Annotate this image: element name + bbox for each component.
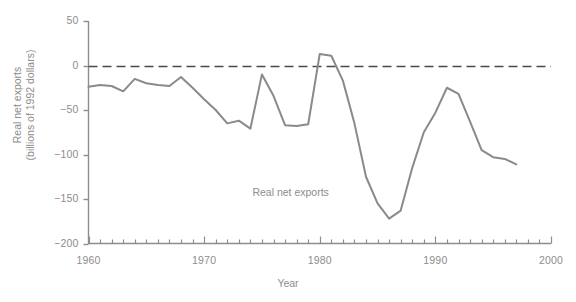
y-axis-title-line-2: (billions of 1992 dollars) (24, 35, 37, 175)
y-axis-tick-label: −150 (54, 192, 78, 204)
x-axis-tick-label: 1960 (59, 254, 119, 266)
axes (84, 21, 552, 245)
y-axis-tick-label: −50 (60, 103, 78, 115)
x-axis-ticks (90, 237, 552, 244)
y-axis-tick-label: 0 (72, 59, 78, 71)
x-axis-tick-label: 1970 (174, 254, 234, 266)
y-axis-title-line-1: Real net exports (11, 35, 24, 175)
chart-container: 500−50−100−150−200 19601970198019902000 … (0, 0, 576, 302)
x-axis-title: Year (0, 277, 576, 289)
x-axis-tick-label: 2000 (521, 254, 576, 266)
y-axis-ticks (84, 22, 89, 245)
x-axis-tick-label: 1980 (290, 254, 350, 266)
y-axis-title: Real net exports (billions of 1992 dolla… (11, 35, 37, 175)
x-axis-tick-label: 1990 (405, 254, 465, 266)
y-axis-tick-label: −200 (54, 237, 78, 249)
y-axis-tick-label: 50 (66, 14, 78, 26)
y-axis-tick-label: −100 (54, 148, 78, 160)
series-annotation-label: Real net exports (252, 186, 328, 198)
